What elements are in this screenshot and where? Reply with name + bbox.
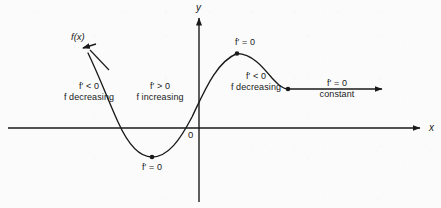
curve-left-segment	[88, 53, 237, 157]
graph-canvas	[0, 0, 441, 208]
annotation-middle-branch-behavior: f increasing	[136, 92, 183, 103]
local-max-point	[235, 51, 240, 56]
fx-label-leader-line	[90, 50, 109, 70]
constant-start-point	[286, 87, 291, 92]
local-min-point	[150, 155, 155, 160]
derivative-sign-diagram: f(x) y x 0 f′ < 0 f decreasing f′ > 0 f …	[0, 0, 441, 208]
annotation-right-branch-derivative: f′ < 0	[231, 71, 281, 82]
annotation-middle-branch: f′ > 0 f increasing	[136, 81, 183, 102]
annotation-right-branch: f′ < 0 f decreasing	[231, 71, 281, 92]
curve-label-fx: f(x)	[71, 31, 85, 42]
annotation-left-branch-behavior: f decreasing	[64, 92, 114, 103]
origin-label: 0	[188, 129, 193, 140]
critical-label-local-min: f′ = 0	[142, 162, 162, 173]
annotation-constant-branch: f′ = 0 constant	[320, 78, 355, 99]
annotation-left-branch: f′ < 0 f decreasing	[64, 81, 114, 102]
annotation-constant-branch-derivative: f′ = 0	[320, 78, 355, 89]
critical-label-local-max: f′ = 0	[235, 37, 255, 48]
y-axis-label: y	[196, 2, 201, 13]
annotation-left-branch-derivative: f′ < 0	[64, 81, 114, 92]
annotation-right-branch-behavior: f decreasing	[231, 82, 281, 93]
annotation-constant-branch-behavior: constant	[320, 89, 355, 100]
annotation-middle-branch-derivative: f′ > 0	[136, 81, 183, 92]
curve-left-arrow	[83, 44, 96, 48]
x-axis-label: x	[429, 122, 434, 133]
